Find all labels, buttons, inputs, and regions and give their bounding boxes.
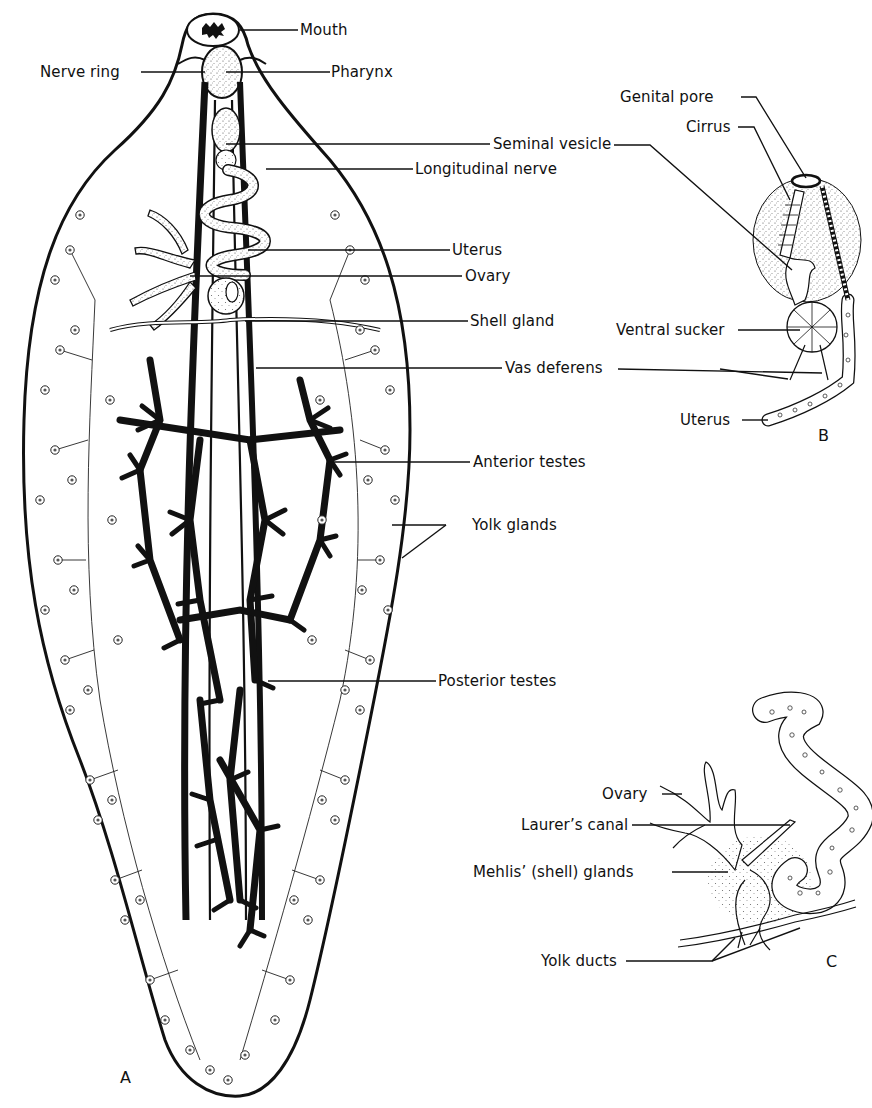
- label-pharynx: Pharynx: [331, 63, 393, 81]
- label-uterus: Uterus: [452, 241, 502, 259]
- label-cirrus: Cirrus: [686, 118, 731, 136]
- label-ovary-c: Ovary: [602, 785, 647, 803]
- label-vas-deferens: Vas deferens: [505, 359, 603, 377]
- label-posterior-testes: Posterior testes: [438, 672, 557, 690]
- label-longitudinal-nerve: Longitudinal nerve: [415, 160, 557, 178]
- fluke-anatomy-figure: Mouth Nerve ring Pharynx Seminal vesicle…: [0, 0, 872, 1108]
- label-seminal-vesicle: Seminal vesicle: [493, 135, 611, 153]
- label-ovary: Ovary: [465, 267, 510, 285]
- panel-label-c: C: [826, 952, 837, 971]
- label-genital-pore: Genital pore: [620, 88, 714, 106]
- label-shell-gland: Shell gland: [470, 312, 554, 330]
- label-yolk-ducts: Yolk ducts: [541, 952, 617, 970]
- panel-a-body: [23, 14, 410, 1096]
- panel-b-drawing: [753, 175, 861, 420]
- label-yolk-glands: Yolk glands: [472, 516, 557, 534]
- panel-c-drawing: [650, 705, 861, 950]
- label-laurers-canal: Laurer’s canal: [521, 816, 628, 834]
- label-uterus-b: Uterus: [680, 411, 730, 429]
- label-nerve-ring: Nerve ring: [40, 63, 120, 81]
- label-ventral-sucker: Ventral sucker: [616, 321, 725, 339]
- panel-label-b: B: [818, 426, 829, 445]
- label-anterior-testes: Anterior testes: [473, 453, 586, 471]
- label-mehlis-glands: Mehlis’ (shell) glands: [473, 863, 634, 881]
- label-mouth: Mouth: [300, 21, 348, 39]
- panel-label-a: A: [120, 1068, 131, 1087]
